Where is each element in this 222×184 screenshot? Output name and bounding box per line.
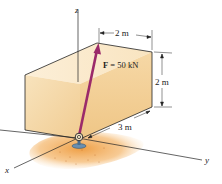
y-axis-label: y: [204, 155, 209, 165]
x-axis-label: x: [4, 165, 9, 175]
height-dimension-label: 2 m: [155, 77, 169, 87]
ground-patch: [29, 132, 143, 169]
force-label: F = 50 kN: [103, 60, 138, 70]
box-front-face: [25, 75, 80, 139]
top-width-dimension-label: 2 m: [115, 28, 129, 38]
force-diagram: z x y 2 m 2 m 3 m F = 50 kN: [0, 0, 222, 184]
z-axis-label: z: [74, 5, 79, 15]
force-value: 50 kN: [117, 60, 138, 70]
depth-dimension-label: 3 m: [118, 122, 132, 132]
force-equals: =: [108, 60, 117, 70]
